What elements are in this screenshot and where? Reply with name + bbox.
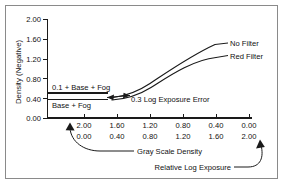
- x-tick-label-bottom: 1.20: [176, 132, 191, 141]
- leader-relative-log-exposure: [234, 145, 262, 167]
- y-tick-label: 0.80: [26, 75, 41, 84]
- x-tick-label-top: 0.40: [209, 121, 224, 130]
- y-axis-tick-labels: 2.00 1.60 1.20 0.80 0.40 0.00: [26, 15, 41, 123]
- arrowhead-gray-scale-density: [66, 123, 75, 131]
- leader-no-filter: [215, 43, 228, 45]
- x-tick-label-bottom: 1.60: [209, 132, 224, 141]
- x-tick-label-bottom: 0.00: [77, 132, 92, 141]
- x-tick-label-bottom: 0.80: [143, 132, 158, 141]
- y-tick-label: 2.00: [26, 15, 41, 24]
- label-01-base-fog: 0.1 + Base + Fog: [52, 83, 110, 92]
- y-tick-label: 0.40: [26, 95, 41, 104]
- series-label-red-filter: Red Filter: [230, 52, 263, 61]
- y-tick-label: 0.00: [26, 114, 41, 123]
- x-axis-tick-labels-gray-scale-density: 2.00 1.60 1.20 0.80 0.40 0.00: [77, 121, 257, 130]
- x-tick-label-top: 1.60: [110, 121, 125, 130]
- axis-label-relative-log-exposure: Relative Log Exposure: [155, 163, 231, 172]
- arrowhead-left: [107, 95, 114, 101]
- x-axis-tick-labels-relative-log-exposure: 0.00 0.40 0.80 1.20 1.60 2.00: [77, 132, 257, 141]
- y-axis-title: Density (Negative): [14, 40, 23, 105]
- leader-red-filter: [216, 56, 228, 58]
- label-exposure-error: 0.3 Log Exposure Error: [131, 95, 210, 104]
- x-axis-ticks: [84, 114, 249, 119]
- curve-no-filter: [113, 45, 215, 98]
- y-tick-label: 1.60: [26, 35, 41, 44]
- arrowhead-relative-log-exposure: [256, 140, 265, 149]
- x-tick-label-bottom: 2.00: [242, 132, 257, 141]
- chart-figure: 2.00 1.60 1.20 0.80 0.40 0.00 Density (N…: [0, 0, 283, 184]
- axis-label-gray-scale-density: Gray Scale Density: [137, 147, 202, 156]
- label-base-fog: Base + Fog: [52, 101, 91, 110]
- curve-red-filter: [112, 58, 216, 101]
- y-tick-label: 1.20: [26, 55, 41, 64]
- x-tick-label-top: 0.00: [242, 121, 257, 130]
- x-tick-label-top: 2.00: [77, 121, 92, 130]
- x-tick-label-top: 1.20: [143, 121, 158, 130]
- y-axis-ticks: [43, 20, 48, 119]
- x-tick-label-top: 0.80: [176, 121, 191, 130]
- x-tick-label-bottom: 0.40: [110, 132, 125, 141]
- series-label-no-filter: No Filter: [230, 39, 259, 48]
- film-characteristic-curve-chart: 2.00 1.60 1.20 0.80 0.40 0.00 Density (N…: [0, 0, 283, 184]
